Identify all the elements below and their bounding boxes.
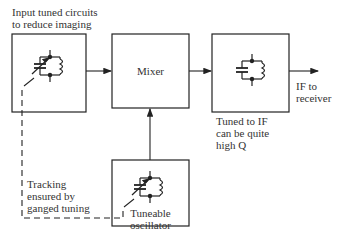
oscillator-caption: Tuneable oscillator: [112, 207, 189, 231]
mixer-label: Mixer: [112, 65, 189, 77]
if-filter-block: [212, 34, 289, 112]
tracking-note: Tracking ensured by ganged tuning: [27, 178, 90, 214]
output-caption: IF to receiver: [296, 80, 331, 104]
input-block-caption: Input tuned circuits to reduce imaging: [12, 6, 98, 30]
variable-tank-circuit-icon: [124, 171, 163, 207]
input-tuned-circuit-block: [12, 34, 86, 112]
fixed-tank-circuit-icon: [236, 54, 265, 86]
if-block-caption: Tuned to IF can be quite high Q: [216, 115, 269, 151]
variable-tank-circuit-icon: [24, 50, 63, 86]
